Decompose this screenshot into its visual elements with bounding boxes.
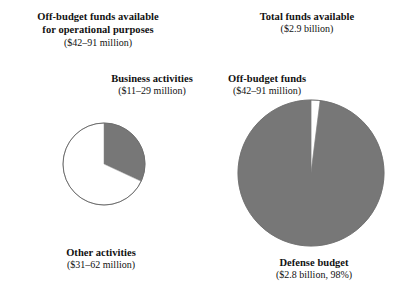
label-total-funds-available: Total funds available ($2.9 billion)	[218, 10, 396, 36]
label-amount: ($31–62 million)	[38, 259, 164, 272]
pie-chart-total-funds-breakdown	[232, 94, 390, 252]
label-amount: ($42–91 million)	[8, 37, 188, 50]
label-business-activities: Business activities ($11–29 million)	[92, 72, 212, 98]
label-amount: ($11–29 million)	[92, 85, 212, 98]
label-line-1: Defense budget	[244, 256, 384, 269]
label-line-2: for operational purposes	[8, 23, 188, 36]
label-off-budget-operational: Off-budget funds available for operation…	[8, 10, 188, 50]
label-line-1: Off-budget funds available	[8, 10, 188, 23]
label-line-1: Other activities	[38, 246, 164, 259]
label-line-1: Business activities	[92, 72, 212, 85]
label-amount: ($2.9 billion)	[218, 23, 396, 36]
label-line-1: Total funds available	[218, 10, 396, 23]
pie-slice-defense-budget	[238, 100, 384, 246]
label-defense-budget: Defense budget ($2.8 billion, 98%)	[244, 256, 384, 282]
pie-chart-figure: Off-budget funds available for operation…	[0, 0, 403, 292]
label-other-activities: Other activities ($31–62 million)	[38, 246, 164, 272]
pie-chart-off-budget-funds-breakdown	[58, 118, 150, 210]
label-line-1: Off-budget funds	[206, 72, 328, 85]
label-amount: ($2.8 billion, 98%)	[244, 269, 384, 282]
